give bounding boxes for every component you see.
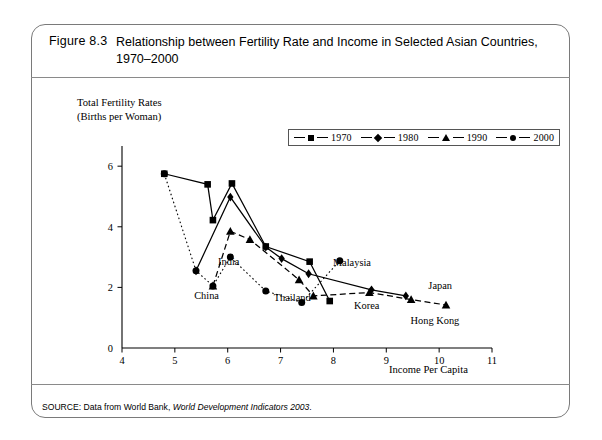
x-tick-label: 10 (434, 355, 444, 366)
figure-page: Figure 8.3 Relationship between Fertilit… (0, 0, 602, 440)
square-marker (229, 180, 236, 187)
y-tick-label: 0 (108, 343, 113, 354)
source-title: World Development Indicators 2003 (173, 402, 310, 412)
square-marker (204, 181, 211, 188)
source-prefix: SOURCE: Data from World Bank, (42, 402, 173, 412)
point-label-malaysia: Malaysia (333, 257, 371, 268)
x-tick-label: 9 (384, 355, 389, 366)
diamond-marker (305, 269, 311, 278)
series-1970 (161, 170, 333, 304)
source-suffix: . (309, 402, 311, 412)
x-tick-label: 6 (225, 355, 230, 366)
point-label-japan: Japan (428, 280, 452, 291)
chart-plot: 45678910110246IndiaChinaThailandMalaysia… (0, 0, 602, 440)
x-tick-label: 8 (331, 355, 336, 366)
x-tick-label: 11 (487, 355, 497, 366)
point-label-china: China (194, 290, 219, 301)
triangle-marker (226, 227, 235, 235)
point-label-hong-kong: Hong Kong (411, 315, 460, 326)
circle-marker (262, 288, 269, 295)
circle-marker (161, 170, 168, 177)
series-2000 (161, 170, 343, 306)
diamond-marker (278, 254, 284, 263)
point-label-korea: Korea (354, 300, 380, 311)
square-marker (306, 258, 313, 265)
square-marker (326, 298, 333, 305)
series-line (164, 174, 339, 303)
circle-marker (193, 267, 200, 274)
x-tick-label: 5 (172, 355, 177, 366)
y-tick-label: 4 (108, 222, 114, 233)
x-tick-label: 4 (119, 355, 125, 366)
x-tick-label: 7 (278, 355, 283, 366)
y-tick-label: 6 (108, 161, 113, 172)
y-tick-label: 2 (108, 282, 113, 293)
triangle-marker (246, 235, 255, 243)
point-label-thailand: Thailand (274, 292, 312, 303)
circle-marker (209, 282, 216, 289)
triangle-marker (442, 301, 451, 309)
square-marker (210, 217, 217, 224)
series-line (164, 174, 329, 301)
source-note: SOURCE: Data from World Bank, World Deve… (42, 402, 312, 412)
series-1990 (209, 227, 451, 308)
point-label-india: India (218, 256, 240, 267)
